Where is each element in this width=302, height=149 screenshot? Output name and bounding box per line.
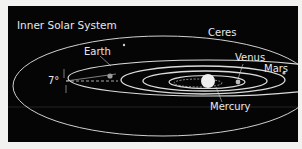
earth-planet — [107, 73, 112, 78]
diagram-title: Inner Solar System — [17, 20, 117, 31]
earth-leader — [100, 56, 111, 66]
venus-planet — [236, 80, 241, 85]
mercury-leader — [216, 87, 222, 102]
sun-icon — [201, 74, 215, 88]
mars-label: Mars — [264, 64, 288, 74]
venus-label: Venus — [235, 53, 265, 63]
inclination-label: 7° — [48, 76, 59, 86]
earth-label: Earth — [84, 47, 111, 57]
ceres-body — [123, 44, 125, 46]
diagram-panel: Inner Solar System Ceres Earth Venus Mar… — [8, 6, 298, 142]
mercury-label: Mercury — [210, 102, 251, 112]
venus-leader — [238, 64, 243, 79]
ceres-orbit — [13, 36, 298, 136]
ceres-label: Ceres — [208, 28, 236, 38]
